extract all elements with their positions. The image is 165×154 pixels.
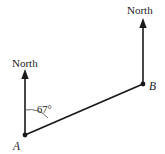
bearing-diagram-canvas: North North A B 67°	[0, 0, 165, 154]
north-arrow-right-head-icon	[139, 18, 146, 28]
vertex-dot-b	[141, 82, 146, 87]
point-label-a: A	[12, 140, 21, 152]
north-label-right: North	[127, 4, 153, 16]
vertex-dot-a	[23, 133, 28, 138]
north-arrow-left-head-icon	[21, 69, 28, 79]
point-label-b: B	[149, 80, 156, 92]
angle-label-67: 67°	[37, 104, 52, 115]
north-label-left: North	[12, 57, 38, 69]
bearing-diagram-figure: North North A B 67°	[0, 0, 165, 154]
